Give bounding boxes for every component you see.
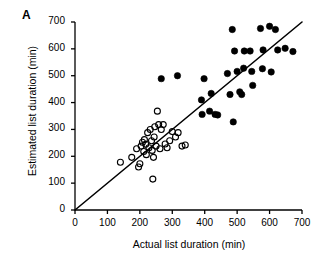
- data-point: [174, 73, 180, 79]
- figure-panel-a: A Estimated list duration (min) Actual l…: [0, 0, 330, 264]
- data-point: [259, 66, 265, 72]
- data-point: [247, 48, 253, 54]
- x-tick-label: 200: [123, 217, 157, 228]
- y-tick-label: 300: [31, 122, 65, 133]
- data-point: [260, 47, 266, 53]
- data-point: [266, 23, 272, 29]
- x-tick-label: 300: [155, 217, 189, 228]
- y-tick-label: 700: [31, 15, 65, 26]
- data-point: [257, 25, 263, 31]
- data-points: [117, 23, 296, 182]
- y-tick-label: 600: [31, 42, 65, 53]
- identity-line: [75, 22, 302, 210]
- x-tick-label: 100: [90, 217, 124, 228]
- data-point: [150, 154, 156, 160]
- series-open-circles: [117, 108, 188, 182]
- data-point: [158, 75, 164, 81]
- data-point: [250, 82, 256, 88]
- data-point: [208, 90, 214, 96]
- x-tick-label: 600: [253, 217, 287, 228]
- x-tick-label: 500: [220, 217, 254, 228]
- y-tick-label: 100: [31, 176, 65, 187]
- data-point: [167, 138, 173, 144]
- data-point: [230, 119, 236, 125]
- data-point: [229, 26, 235, 32]
- series-filled-circles: [158, 23, 296, 125]
- data-point: [199, 111, 205, 117]
- data-point: [272, 26, 278, 32]
- data-point: [282, 45, 288, 51]
- data-point: [227, 91, 233, 97]
- data-point: [214, 112, 220, 118]
- data-point: [268, 69, 274, 75]
- y-tick-label: 400: [31, 96, 65, 107]
- data-point: [224, 70, 230, 76]
- data-point: [154, 108, 160, 114]
- data-point: [249, 68, 255, 74]
- y-tick-label: 200: [31, 149, 65, 160]
- data-point: [238, 91, 244, 97]
- data-point: [290, 48, 296, 54]
- x-tick-label: 0: [58, 217, 92, 228]
- y-tick-label: 500: [31, 69, 65, 80]
- data-point: [198, 97, 204, 103]
- data-point: [201, 75, 207, 81]
- data-point: [150, 176, 156, 182]
- data-point: [234, 68, 240, 74]
- data-point: [117, 159, 123, 165]
- y-tick-label: 0: [31, 203, 65, 214]
- data-point: [129, 154, 135, 160]
- data-point: [231, 48, 237, 54]
- data-point: [241, 48, 247, 54]
- x-tick-label: 400: [188, 217, 222, 228]
- data-point: [274, 47, 280, 53]
- x-tick-label: 700: [285, 217, 319, 228]
- data-point: [240, 65, 246, 71]
